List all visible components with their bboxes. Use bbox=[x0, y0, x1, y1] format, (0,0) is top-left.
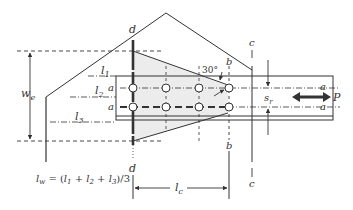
load-p-label: P bbox=[332, 91, 341, 104]
bolt-hole bbox=[129, 103, 137, 111]
bolt-line-a-left-2-label: a bbox=[108, 101, 114, 112]
bolt-line-a-right-1-label: a bbox=[320, 81, 326, 92]
l1-label: l1 bbox=[101, 64, 110, 79]
section-b-top-label: b bbox=[226, 56, 232, 67]
l3-label: l3 bbox=[75, 110, 84, 125]
bolt-line-a-right-2-label: a bbox=[320, 101, 326, 112]
bolt-hole bbox=[195, 84, 203, 92]
section-b-bottom-label: b bbox=[226, 140, 232, 151]
section-c-top-label: c bbox=[249, 37, 255, 48]
sr-label: sr bbox=[264, 92, 273, 106]
bolt-hole bbox=[162, 84, 170, 92]
bolt-hole bbox=[225, 103, 233, 111]
bolt-hole bbox=[162, 103, 170, 111]
angle-label: 30° bbox=[202, 65, 218, 75]
we-label: we bbox=[21, 87, 35, 102]
section-c-bottom-label: c bbox=[249, 178, 255, 189]
section-d-bottom-label: d bbox=[129, 162, 136, 175]
bolt-hole bbox=[225, 84, 233, 92]
bolt-hole bbox=[195, 103, 203, 111]
section-d-top-label: d bbox=[129, 23, 136, 36]
bolt-line-a-left-1-label: a bbox=[108, 82, 114, 93]
l2-label: l2 bbox=[95, 84, 104, 99]
lc-label: lc bbox=[175, 181, 184, 196]
load-arrow-head-left bbox=[292, 92, 300, 102]
effective-length-formula: lw = (l1 + l2 + l3)/3 bbox=[36, 173, 130, 186]
whitmore-section-diagram: d d b b c c a a a a l1 l2 l3 we sr lc P … bbox=[0, 0, 353, 210]
bolt-hole bbox=[129, 84, 137, 92]
